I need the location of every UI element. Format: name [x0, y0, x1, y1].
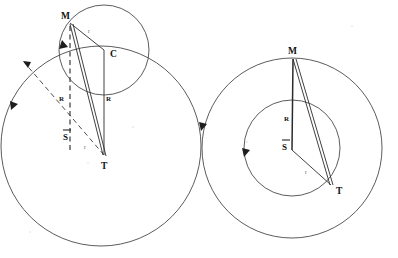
label-r: r: [305, 169, 307, 175]
right-panel: M T R S r: [199, 46, 382, 238]
label-R-right: R: [106, 95, 112, 103]
segment-M-to-T-secondary: [296, 59, 333, 185]
arrow-deferent-direction: [10, 101, 18, 110]
point-label-T: T: [101, 161, 108, 171]
segment-M-to-T: [70, 24, 103, 155]
left-panel: M C T r R R S r: [1, 5, 201, 246]
arrow-inner-direction: [242, 148, 250, 157]
arrow-epicycle-direction: [59, 40, 68, 49]
segment-M-to-T-secondary: [73, 24, 106, 156]
label-S-bar-text: S: [282, 142, 287, 152]
label-R-left: R: [59, 95, 65, 103]
label-r-lower: r: [84, 144, 86, 150]
point-label-C: C: [110, 49, 117, 59]
point-label-M: M: [61, 11, 70, 21]
figure-root: M C T r R R S r: [0, 0, 398, 258]
point-label-T: T: [336, 186, 343, 196]
label-r-epicycle: r: [88, 28, 90, 34]
segment-M-to-T: [293, 59, 330, 185]
geometry-diagram: M C T r R R S r: [0, 0, 398, 258]
segment-M-to-center: [292, 59, 293, 150]
label-S-bar: S: [282, 140, 290, 152]
label-S-bar-text: S: [63, 132, 68, 142]
label-R: R: [284, 115, 290, 123]
arrow-ray-tip: [23, 61, 31, 68]
point-label-M: M: [288, 46, 297, 56]
